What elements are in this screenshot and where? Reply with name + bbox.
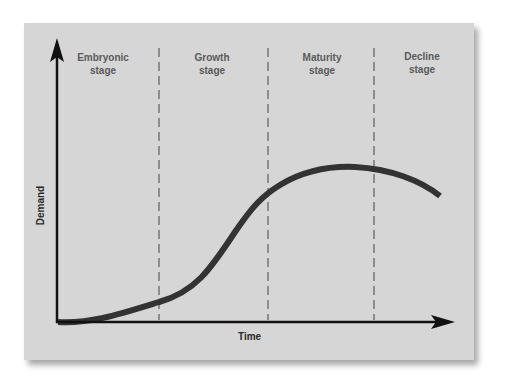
demand-curve <box>58 167 440 322</box>
stage-label-line1: Embryonic <box>53 51 153 64</box>
stage-label-decline: Decline stage <box>372 50 472 76</box>
y-axis-label: Demand <box>35 186 46 226</box>
stage-label-line2: stage <box>272 64 372 77</box>
stage-label-line2: stage <box>53 64 153 77</box>
stage-label-maturity: Maturity stage <box>272 51 372 77</box>
stage-label-line1: Decline <box>372 50 472 63</box>
x-axis-label: Time <box>238 331 261 342</box>
stage-label-line2: stage <box>372 63 472 76</box>
stage-label-line2: stage <box>162 64 262 77</box>
stage-label-line1: Growth <box>162 51 262 64</box>
stage-label-embryonic: Embryonic stage <box>53 51 153 77</box>
stage-dividers <box>159 48 374 320</box>
stage-label-growth: Growth stage <box>162 51 262 77</box>
diagram-canvas: Embryonic stage Growth stage Maturity st… <box>0 0 507 382</box>
y-axis <box>50 38 64 323</box>
stage-label-line1: Maturity <box>272 51 372 64</box>
